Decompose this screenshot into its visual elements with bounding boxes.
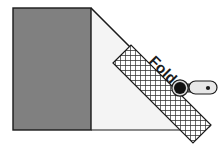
fold-illustration: Fold bbox=[0, 0, 221, 157]
illustration-canvas: Fold bbox=[0, 0, 221, 157]
roller-handle-dot bbox=[206, 86, 210, 90]
dark-panel bbox=[13, 8, 91, 130]
roller-tool bbox=[172, 80, 217, 96]
roller-handle bbox=[189, 81, 217, 94]
roller-head-inner bbox=[174, 82, 186, 94]
